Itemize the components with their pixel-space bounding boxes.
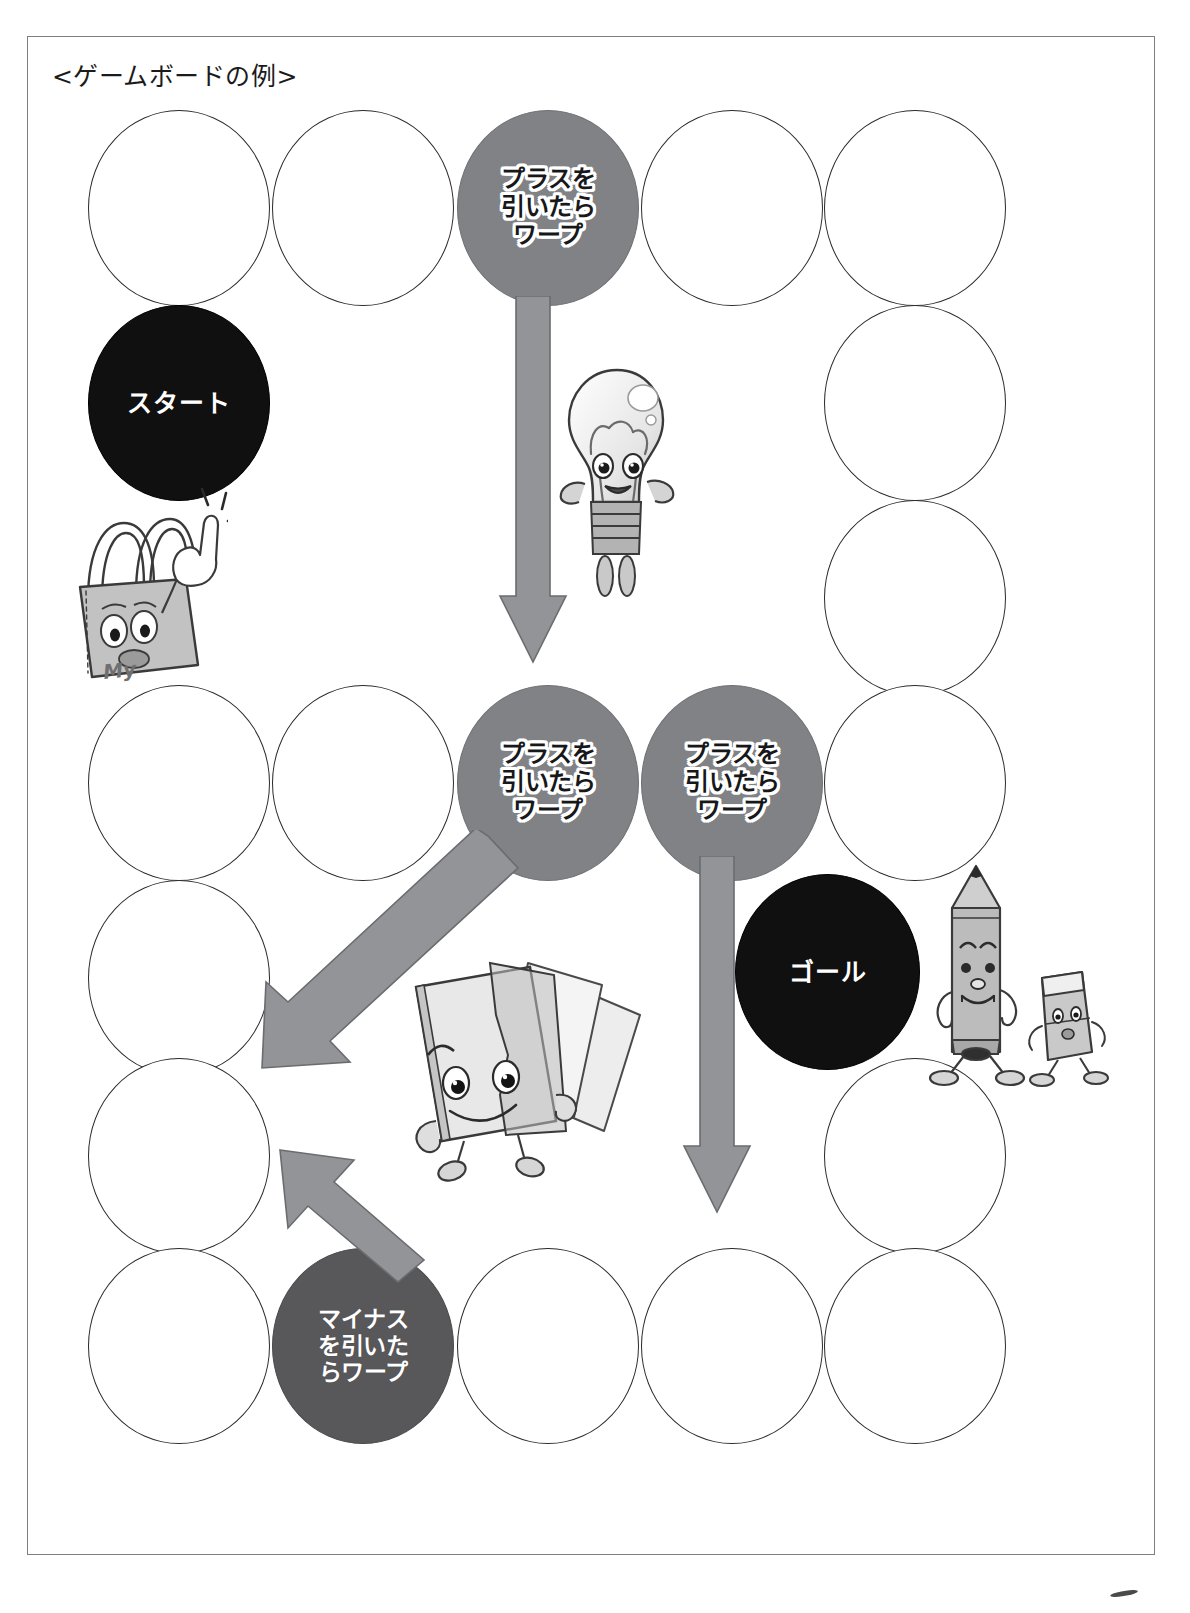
board-cell-c-left-2[interactable] — [88, 880, 270, 1076]
board-cell-label: マイナス を引いた らワープ — [318, 1306, 408, 1386]
board-cell-label: ゴール — [789, 958, 867, 987]
board-cell-c-right-3[interactable] — [824, 500, 1006, 696]
board-cell-c-mid-5[interactable] — [824, 685, 1006, 881]
board-cell-label: プラスを 引いたら ワープ — [685, 741, 779, 824]
board-cell-c-mid-4[interactable]: プラスを 引いたら ワープ — [641, 685, 823, 881]
board-cell-c-left-3[interactable] — [88, 1058, 270, 1254]
page-root: <ゲームボードの例> プラスを 引いたら ワープスタートプラスを 引いたら ワー… — [0, 0, 1190, 1613]
board-cell-label: スタート — [127, 389, 231, 418]
board-cell-c-top-1[interactable] — [88, 110, 270, 306]
board-cell-c-right-2[interactable] — [824, 305, 1006, 501]
board-cell-c-mid-1[interactable] — [88, 685, 270, 881]
board-cell-c-top-5[interactable] — [824, 110, 1006, 306]
board-cell-c-right-4[interactable] — [824, 1058, 1006, 1254]
page-corner-mark — [1110, 1589, 1138, 1598]
board-cell-label: プラスを 引いたら ワープ — [501, 741, 595, 824]
board-cell-c-mid-3[interactable]: プラスを 引いたら ワープ — [457, 685, 639, 881]
board-cell-c-bot-4[interactable] — [641, 1248, 823, 1444]
board-cell-c-top-4[interactable] — [641, 110, 823, 306]
board-cell-label: プラスを 引いたら ワープ — [501, 166, 595, 249]
board-cell-c-bot-5[interactable] — [824, 1248, 1006, 1444]
board-cell-c-top-2[interactable] — [272, 110, 454, 306]
board-cell-c-bot-1[interactable] — [88, 1248, 270, 1444]
board-cell-c-bot-3[interactable] — [457, 1248, 639, 1444]
page-title: <ゲームボードの例> — [52, 56, 298, 92]
board-cell-c-bot-2[interactable]: マイナス を引いた らワープ — [272, 1248, 454, 1444]
board-cell-c-mid-2[interactable] — [272, 685, 454, 881]
board-cell-c-top-3[interactable]: プラスを 引いたら ワープ — [457, 110, 639, 306]
board-cell-c-left-start[interactable]: スタート — [88, 305, 270, 501]
board-cell-c-goal[interactable]: ゴール — [735, 874, 920, 1070]
